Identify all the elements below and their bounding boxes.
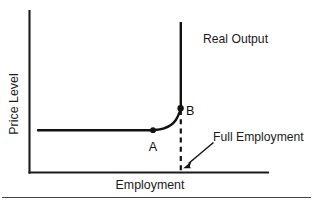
point-b-label: B <box>186 104 194 118</box>
figure-container: Price Level Employment Real Output Full … <box>0 0 313 206</box>
x-axis-label: Employment <box>116 178 185 192</box>
point-a-marker <box>150 127 156 133</box>
y-axis-label: Price Level <box>7 73 21 134</box>
real-output-label: Real Output <box>203 32 269 46</box>
full-employment-label: Full Employment <box>213 130 304 144</box>
diagram-background <box>0 0 313 206</box>
economics-diagram: Price Level Employment Real Output Full … <box>0 0 313 206</box>
point-a-label: A <box>149 140 158 154</box>
point-b-marker <box>177 105 183 111</box>
